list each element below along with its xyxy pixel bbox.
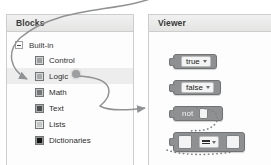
block-false[interactable]: false — [173, 80, 221, 95]
viewer-panel-header: Viewer — [149, 15, 271, 32]
block-true-label: true — [186, 56, 200, 67]
block-false-label: false — [186, 82, 203, 93]
caret-down-icon[interactable] — [212, 141, 216, 144]
blocks-panel: Blocks Built-in Control Logic Ma — [6, 14, 134, 165]
sidebar-item-text-label: Text — [49, 104, 64, 113]
block-false-dropdown[interactable]: false — [181, 82, 214, 93]
tree-node-built-in[interactable]: Built-in — [7, 38, 133, 52]
blocks-panel-body: Built-in Control Logic Math Text — [7, 32, 133, 165]
math-color-swatch-icon — [35, 88, 44, 97]
caret-down-icon[interactable] — [203, 60, 207, 63]
logic-color-swatch-icon — [35, 72, 44, 81]
blocks-panel-header: Blocks — [7, 15, 133, 32]
tree-node-built-in-label: Built-in — [29, 41, 53, 50]
equals-icon — [202, 140, 210, 145]
viewer-panel: Viewer true false — [148, 14, 271, 165]
sidebar-item-control-label: Control — [49, 56, 75, 65]
sidebar-item-math-label: Math — [49, 88, 67, 97]
sidebar-item-logic-label: Logic — [49, 72, 68, 81]
lists-color-swatch-icon — [35, 120, 44, 129]
sidebar-item-text[interactable]: Text — [7, 100, 133, 116]
sidebar-item-lists[interactable]: Lists — [7, 116, 133, 132]
block-compare-left-socket[interactable] — [178, 135, 192, 149]
block-compare-operator-dropdown[interactable] — [199, 136, 219, 148]
control-color-swatch-icon — [35, 56, 44, 65]
dictionaries-color-swatch-icon — [35, 136, 44, 145]
viewer-panel-body: true false not — [149, 32, 271, 165]
block-not-socket[interactable] — [199, 108, 208, 119]
block-compare[interactable] — [173, 132, 245, 152]
drag-handle-dot[interactable] — [72, 70, 80, 78]
blocks-panel-title: Blocks — [7, 18, 44, 28]
block-compare-right-socket[interactable] — [226, 135, 240, 149]
text-color-swatch-icon — [35, 104, 44, 113]
sidebar-item-control[interactable]: Control — [7, 52, 133, 68]
block-true-dropdown[interactable]: true — [181, 56, 211, 67]
block-not-label: not — [178, 109, 197, 118]
caret-down-icon[interactable] — [206, 86, 210, 89]
sidebar-item-logic[interactable]: Logic — [7, 68, 133, 84]
block-not[interactable]: not — [173, 106, 223, 121]
block-plug-icon — [169, 138, 175, 147]
block-plug-icon — [169, 83, 175, 92]
sidebar-item-dictionaries-label: Dictionaries — [49, 136, 91, 145]
blocks-tree: Built-in Control Logic Math Text — [7, 32, 133, 148]
app-root: Blocks Built-in Control Logic Ma — [0, 0, 271, 165]
block-plug-icon — [169, 57, 175, 66]
block-plug-icon — [169, 109, 175, 118]
sidebar-item-math[interactable]: Math — [7, 84, 133, 100]
minus-expander-icon[interactable] — [15, 41, 23, 49]
block-true[interactable]: true — [173, 54, 217, 69]
sidebar-item-lists-label: Lists — [49, 120, 65, 129]
sidebar-item-dictionaries[interactable]: Dictionaries — [7, 132, 133, 148]
viewer-panel-title: Viewer — [149, 18, 186, 28]
